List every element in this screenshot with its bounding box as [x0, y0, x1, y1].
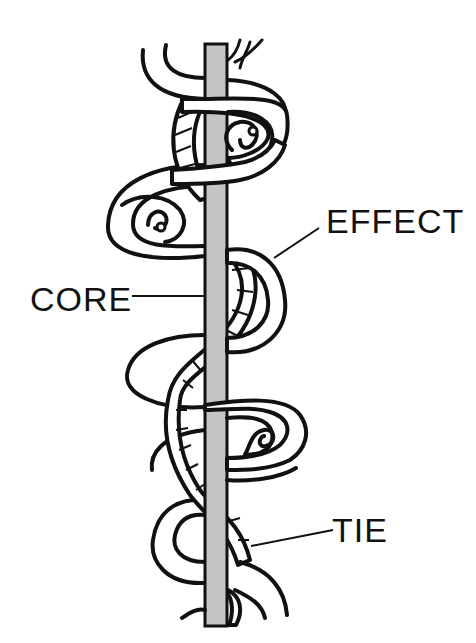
tie-leader-line — [251, 530, 333, 546]
leader-lines — [132, 228, 333, 546]
core-label: CORE — [30, 282, 132, 316]
tie-label: TIE — [332, 513, 388, 547]
fibre-ends — [228, 40, 262, 68]
yarn-diagram — [0, 0, 476, 643]
effect-label: EFFECT — [326, 204, 464, 238]
core-strand — [205, 44, 227, 626]
effect-leader-line — [274, 228, 319, 258]
